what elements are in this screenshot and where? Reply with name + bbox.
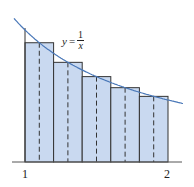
equation-label: y = 1 x [62,30,84,51]
eq-sign: = [69,35,75,47]
denominator: x [78,41,82,51]
x-label-1: 1 [22,167,28,182]
plot-canvas [0,0,194,187]
midpoint-rule-figure: y = 1 x 1 2 [0,0,194,187]
fraction: 1 x [77,30,84,51]
eq-lhs: y [62,35,67,47]
x-label-2: 2 [164,167,170,182]
